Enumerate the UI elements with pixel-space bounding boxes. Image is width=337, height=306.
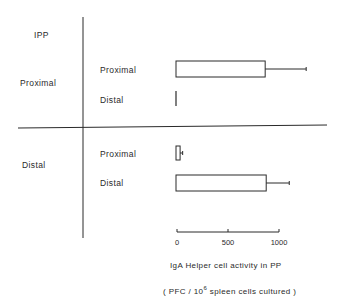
x-axis-units-prefix: ( PFC / 10 xyxy=(163,287,203,296)
x-axis-title: IgA Helper cell activity in PP xyxy=(170,261,282,270)
horizontal-divider xyxy=(18,125,327,128)
bar xyxy=(176,61,265,77)
bar xyxy=(176,175,266,191)
chart-canvas xyxy=(0,0,337,306)
bar-label-distal-proximal: Proximal xyxy=(100,149,136,159)
group-label-proximal: Proximal xyxy=(20,78,56,88)
group-label-distal: Distal xyxy=(22,160,46,170)
x-tick-label-500: 500 xyxy=(222,238,235,247)
x-axis-units-suffix: spleen cells cultured ) xyxy=(207,287,296,296)
x-tick-label-1000: 1000 xyxy=(271,238,288,247)
x-tick-label-0: 0 xyxy=(175,238,179,247)
bar-label-proximal-distal: Distal xyxy=(100,95,124,105)
x-axis-units: ( PFC / 106 spleen cells cultured ) xyxy=(163,285,296,296)
bar-label-distal-distal: Distal xyxy=(100,178,124,188)
bar xyxy=(176,146,180,160)
x-axis xyxy=(177,229,279,232)
bar-label-proximal-proximal: Proximal xyxy=(100,65,136,75)
row-group-title: IPP xyxy=(34,30,49,40)
